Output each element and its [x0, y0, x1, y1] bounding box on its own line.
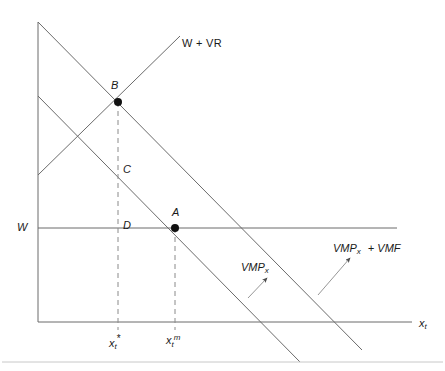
- curve-label-vmp: VMPx: [241, 262, 269, 275]
- curve-label-vmp-vmf-base: VMP: [333, 242, 357, 254]
- curve-label-vmp-vmf-tail: + VMF: [368, 242, 401, 254]
- curve-label-vmp-plus-vmf: VMPx+ VMF: [333, 243, 401, 256]
- curve-vmp-plus-vmf: [38, 22, 362, 350]
- y-axis-label: W: [17, 222, 27, 233]
- tick-label-x-star: xt*: [109, 334, 121, 351]
- point-label-a: A: [172, 207, 179, 218]
- curve-w-plus-vr: [38, 36, 180, 175]
- point-label-d: D: [123, 220, 131, 231]
- diagram-svg: [0, 0, 445, 371]
- curve-label-vmp-base: VMP: [241, 261, 265, 273]
- x-axis-label: xt: [419, 318, 427, 331]
- tick-x-m-sup: m: [174, 333, 181, 342]
- curve-label-vmp-sub: x: [265, 266, 269, 275]
- leader-arrow-vmp: [248, 278, 267, 298]
- point-label-c: C: [123, 164, 131, 175]
- curve-label-w-plus-vr: W + VR: [182, 38, 222, 49]
- curve-label-vmp-vmf-sub: x: [357, 247, 361, 256]
- leader-arrow-vmp-vmf: [318, 258, 350, 295]
- point-label-b: B: [111, 80, 118, 91]
- point-a-marker: [171, 224, 179, 232]
- x-axis-label-sub: t: [425, 322, 427, 331]
- tick-label-x-m: xtm: [166, 334, 180, 349]
- figure-canvas: W + VR VMPx VMPx+ VMF W xt B C D A xt* x…: [0, 0, 445, 371]
- tick-x-star-sup: *: [117, 333, 121, 344]
- point-b-marker: [114, 98, 122, 106]
